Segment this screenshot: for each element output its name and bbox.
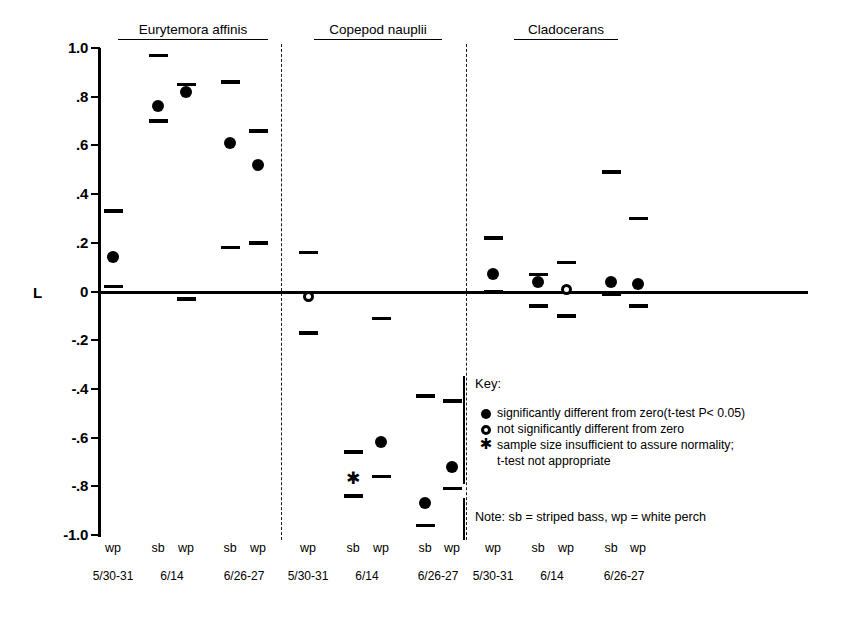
upper-confidence-bar xyxy=(484,236,503,240)
x-axis-species-label: wp xyxy=(432,541,472,555)
y-axis-tick xyxy=(91,47,100,49)
data-point-significant xyxy=(532,276,544,288)
lower-confidence-bar xyxy=(221,246,240,250)
x-axis-species-label: wp xyxy=(618,541,658,555)
key-entry-label: sample size insufficient to assure norma… xyxy=(497,438,815,454)
x-axis-species-label: wp xyxy=(546,541,586,555)
y-axis-tick-label: 1.0 xyxy=(40,39,88,56)
zero-reference-line xyxy=(98,291,808,294)
y-axis-tick-label: -.2 xyxy=(40,331,88,348)
key-note: Note: sb = striped bass, wp = white perc… xyxy=(475,509,706,525)
figure-root: L 1.0.8.6.4.20-.2-.4-.6-.8-1.0 Eurytemor… xyxy=(0,0,844,618)
key-entry: ✱sample size insufficient to assure norm… xyxy=(475,438,815,454)
key-entry: significantly different from zero(t-test… xyxy=(475,406,815,422)
x-axis-date-label: 6/26-27 xyxy=(584,569,664,583)
x-axis-date-label: 6/14 xyxy=(132,569,212,583)
y-axis-tick-label: -.6 xyxy=(40,429,88,446)
group-divider-2 xyxy=(466,44,467,540)
y-axis-tick xyxy=(91,242,100,244)
y-axis-tick-label: .8 xyxy=(40,88,88,105)
lower-confidence-bar xyxy=(104,285,123,289)
data-point-significant xyxy=(446,461,458,473)
data-point-significant xyxy=(419,497,431,509)
key-filled-circle-icon xyxy=(475,406,497,422)
key-rule-bottom xyxy=(463,498,465,540)
y-axis-tick-label: .6 xyxy=(40,136,88,153)
upper-confidence-bar xyxy=(299,251,318,255)
x-axis-date-label: 6/14 xyxy=(327,569,407,583)
key-entry-label: not significantly different from zero xyxy=(497,422,815,438)
group-header: Eurytemora affinis xyxy=(118,22,268,40)
upper-confidence-bar xyxy=(629,217,648,221)
data-point-significant xyxy=(107,251,119,263)
x-axis-species-label: wp xyxy=(288,541,328,555)
y-axis-tick xyxy=(91,339,100,341)
data-point-significant xyxy=(152,100,164,112)
lower-confidence-bar xyxy=(299,331,318,335)
y-axis-tick-label: -1.0 xyxy=(40,526,88,543)
y-axis-tick xyxy=(91,96,100,98)
key-entry-label: significantly different from zero(t-test… xyxy=(497,406,815,422)
upper-confidence-bar xyxy=(416,394,435,398)
key-entry: not significantly different from zero xyxy=(475,422,815,438)
lower-confidence-bar xyxy=(249,241,268,245)
x-axis-species-label: wp xyxy=(93,541,133,555)
lower-confidence-bar xyxy=(529,304,548,308)
data-point-significant xyxy=(375,436,387,448)
upper-confidence-bar xyxy=(602,170,621,174)
upper-confidence-bar xyxy=(344,450,363,454)
upper-confidence-bar xyxy=(104,209,123,213)
lower-confidence-bar xyxy=(443,487,462,491)
upper-confidence-bar xyxy=(149,54,168,58)
x-axis-species-label: wp xyxy=(473,541,513,555)
group-divider-1 xyxy=(281,44,282,540)
group-header: Copepod nauplii xyxy=(314,22,442,40)
y-axis-tick xyxy=(91,388,100,390)
key-entry: t-test not appropriate xyxy=(475,454,815,470)
y-axis-tick-label: 0 xyxy=(40,283,88,300)
x-axis-species-label: wp xyxy=(166,541,206,555)
y-axis-tick xyxy=(91,144,100,146)
lower-confidence-bar xyxy=(416,524,435,528)
y-axis-tick xyxy=(91,534,100,536)
data-point-insufficient-sample: ✱ xyxy=(346,472,360,486)
lower-confidence-bar xyxy=(149,119,168,123)
group-header: Cladocerans xyxy=(514,22,618,40)
y-axis-tick-label: .4 xyxy=(40,185,88,202)
key-rule-top xyxy=(463,376,465,484)
upper-confidence-bar xyxy=(221,80,240,84)
upper-confidence-bar xyxy=(443,399,462,403)
y-axis-tick-label: -.4 xyxy=(40,380,88,397)
x-axis-species-label: wp xyxy=(361,541,401,555)
y-axis-tick xyxy=(91,291,100,293)
key-title: Key: xyxy=(475,376,501,393)
y-axis-tick-label: -.8 xyxy=(40,477,88,494)
key-entry-label: t-test not appropriate xyxy=(497,454,815,470)
lower-confidence-bar xyxy=(372,475,391,479)
upper-confidence-bar xyxy=(372,317,391,321)
y-axis-tick xyxy=(91,485,100,487)
lower-confidence-bar xyxy=(344,494,363,498)
data-point-significant xyxy=(632,278,644,290)
data-point-not-significant xyxy=(303,291,314,302)
lower-confidence-bar xyxy=(602,292,621,296)
lower-confidence-bar xyxy=(177,297,196,301)
x-axis-species-label: wp xyxy=(238,541,278,555)
data-point-significant xyxy=(180,86,192,98)
lower-confidence-bar xyxy=(629,304,648,308)
y-axis-tick-label: .2 xyxy=(40,234,88,251)
data-point-significant xyxy=(487,268,499,280)
data-point-not-significant xyxy=(561,284,572,295)
upper-confidence-bar xyxy=(249,129,268,133)
y-axis-tick xyxy=(91,193,100,195)
x-axis-date-label: 6/14 xyxy=(512,569,592,583)
y-axis-tick xyxy=(91,437,100,439)
lower-confidence-bar xyxy=(557,314,576,318)
key-asterisk-icon: ✱ xyxy=(475,438,497,454)
lower-confidence-bar xyxy=(484,290,503,294)
data-point-significant xyxy=(252,159,264,171)
data-point-significant xyxy=(605,276,617,288)
upper-confidence-bar xyxy=(557,261,576,265)
data-point-significant xyxy=(224,137,236,149)
